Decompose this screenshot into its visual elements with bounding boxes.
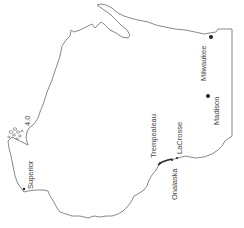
city-dot <box>206 94 210 98</box>
city-trempealeau: Trempealeau <box>149 114 161 164</box>
city-label: Trempealeau <box>149 114 158 158</box>
apostle-islands <box>8 128 23 140</box>
city-superior: Superior <box>23 160 35 190</box>
city-onalaska: Onalaska <box>170 159 179 200</box>
city-lacrosse: LaCrosse <box>175 122 184 159</box>
city-label: Madison <box>212 97 221 125</box>
city-dot <box>159 162 161 164</box>
city-label: LaCrosse <box>175 122 184 154</box>
river-segment <box>158 159 172 165</box>
city-dot <box>23 188 25 190</box>
city-label: Milwaukee <box>199 46 208 81</box>
city-dot <box>171 159 173 161</box>
city-label: Superior <box>26 160 35 189</box>
city-madison: Madison <box>206 94 221 125</box>
city-milwaukee: Milwaukee <box>199 35 213 81</box>
wisconsin-map: 4.0 Superior Milwaukee Madison Trempeale… <box>0 0 244 228</box>
city-dot <box>176 157 178 159</box>
city-dot <box>209 35 213 39</box>
city-label: Onalaska <box>170 167 179 200</box>
island-label-fragment: 4.0 <box>23 116 32 126</box>
state-outline <box>8 4 232 218</box>
